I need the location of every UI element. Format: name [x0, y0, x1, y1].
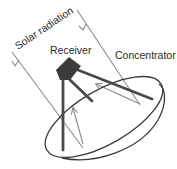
receiver-supports: [63, 70, 152, 150]
receiver-block: [56, 57, 81, 80]
solar-dish-diagram: Solar radiation Receiver Concentrator: [0, 0, 177, 169]
ray-arrowhead-right: [79, 24, 86, 30]
support-arm-middle: [70, 80, 92, 101]
concentrator-dish: [33, 61, 174, 169]
label-receiver: Receiver: [50, 44, 92, 56]
label-concentrator: Concentrator: [115, 49, 176, 61]
reflected-ray-left: [73, 108, 83, 144]
ray-arrowhead-left: [12, 60, 19, 66]
dish-rim: [33, 61, 174, 169]
